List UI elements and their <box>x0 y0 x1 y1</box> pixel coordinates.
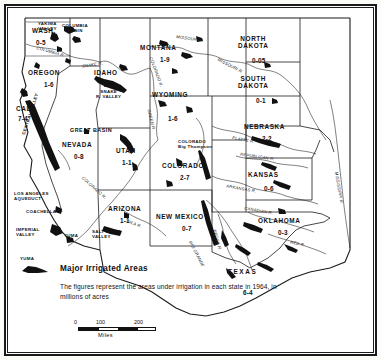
state-label-arizona: ARIZONA <box>108 206 141 213</box>
state-label-utah: UTAH <box>116 148 136 155</box>
state-label-new-mexico: NEW MEXICO <box>156 214 204 221</box>
state-label-south-dakota: SOUTH DAKOTA <box>238 76 268 89</box>
region-label-los-angeles-aqueduct: LOS ANGELES AQUEDUCT <box>14 192 49 201</box>
state-value-utah: 1-1 <box>122 160 132 167</box>
region-label-snake-river-valley: SNAKE R. VALLEY <box>96 90 121 99</box>
region-label-colorado-big-thompson: COLORADO Big Thompson <box>178 140 212 149</box>
scale-bar-graphic <box>78 327 156 331</box>
state-label-montana: MONTANA <box>140 45 176 52</box>
state-value-north-dakota: 0-05 <box>252 58 266 65</box>
state-label-north-dakota: NORTH DAKOTA <box>238 36 268 49</box>
state-label-nevada: NEVADA <box>62 142 92 149</box>
region-label-coachella-valley: COACHELLA V. <box>26 210 62 215</box>
region-label-yakima-valley: YAKIMA VALLEY <box>38 22 57 31</box>
legend-subtitle: The figures represent the areas under ir… <box>60 282 300 302</box>
state-value-south-dakota: 0-1 <box>256 98 266 105</box>
region-label-columbia-basin: COLUMBIA BASIN <box>62 24 88 33</box>
state-value-nevada: 0-8 <box>74 154 84 161</box>
state-label-oklahoma: OKLAHOMA <box>258 218 300 225</box>
scale-bar: 0 100 200 <box>74 319 194 331</box>
scale-tick-200: 200 <box>134 319 143 325</box>
state-label-nebraska: NEBRASKA <box>244 124 285 131</box>
state-value-montana: 1-9 <box>160 57 170 64</box>
state-label-idaho: IDAHO <box>94 70 118 77</box>
scale-unit-label: Miles <box>98 332 113 338</box>
state-value-wyoming: 1-6 <box>168 116 178 123</box>
state-label-wyoming: WYOMING <box>152 92 188 99</box>
legend-swatch-label: YUMA <box>20 256 34 261</box>
state-label-colorado: COLORADO <box>162 163 204 170</box>
map-figure: WASH. 0-5 OREGON 1-6 CAL. 7-4 IDAHO 2-8 … <box>0 0 381 360</box>
state-value-idaho: 2-8 <box>104 82 114 89</box>
scale-tick-100: 100 <box>96 319 105 325</box>
state-value-nebraska: 2-2 <box>262 136 272 143</box>
region-label-salt-river-valley: SALT RIVER VALLEY <box>92 230 121 239</box>
state-label-kansas: KANSAS <box>248 172 279 179</box>
region-label-imperial-valley: IMPERIAL VALLEY <box>16 228 39 237</box>
legend-swatch-icon <box>20 264 50 274</box>
region-label-yuma: YUMA <box>64 234 78 239</box>
state-value-new-mexico: 0-7 <box>182 226 192 233</box>
state-label-oregon: OREGON <box>28 70 60 77</box>
map-legend: YUMA Major Irrigated Areas The figures r… <box>14 262 365 347</box>
region-label-great-basin: GREAT BASIN <box>70 128 112 134</box>
state-value-oregon: 1-6 <box>44 82 54 89</box>
state-value-oklahoma: 0-3 <box>278 230 288 237</box>
scale-tick-0: 0 <box>74 319 77 325</box>
legend-title: Major Irrigated Areas <box>60 264 148 273</box>
state-value-colorado: 2-7 <box>180 175 190 182</box>
state-value-kansas: 0-6 <box>264 186 274 193</box>
